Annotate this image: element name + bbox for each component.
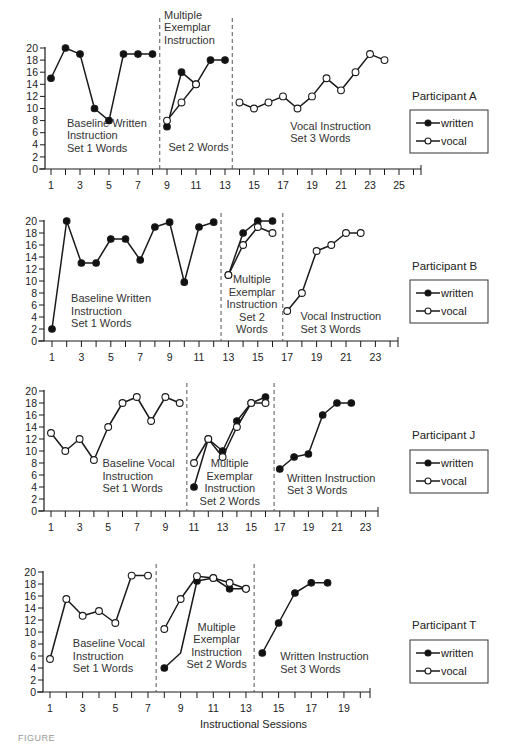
- y-tick-label: 10: [24, 626, 36, 638]
- x-tick-label: 3: [80, 702, 86, 714]
- x-tick-label: 3: [78, 351, 84, 363]
- data-point-written: [191, 484, 198, 491]
- data-point-written: [348, 400, 355, 407]
- data-point-written: [207, 57, 214, 64]
- y-tick-label: 12: [26, 90, 38, 102]
- data-point-written: [122, 236, 129, 243]
- data-point-vocal: [177, 596, 184, 603]
- data-point-written: [161, 665, 168, 672]
- data-point-vocal: [328, 242, 335, 249]
- data-point-vocal: [148, 418, 155, 425]
- data-point-vocal: [313, 248, 320, 255]
- y-tick-label: 14: [25, 421, 37, 433]
- data-point-vocal: [91, 457, 98, 464]
- y-tick-label: 4: [31, 481, 37, 493]
- x-tick-label: 1: [47, 702, 53, 714]
- y-tick-label: 14: [24, 602, 36, 614]
- data-point-vocal: [210, 575, 217, 582]
- data-point-vocal: [178, 99, 185, 106]
- data-point-written: [259, 650, 266, 657]
- y-tick-label: 6: [31, 469, 37, 481]
- x-tick-label: 5: [106, 179, 112, 191]
- data-point-vocal: [119, 400, 126, 407]
- y-tick-label: 20: [25, 385, 37, 397]
- series-line-vocal: [194, 403, 266, 463]
- y-tick-label: 0: [31, 505, 37, 517]
- data-point-vocal: [265, 99, 272, 106]
- phase-label: Baseline VocalInstructionSet 1 Words: [73, 637, 145, 674]
- y-tick-label: 16: [26, 66, 38, 78]
- x-tick-label: 23: [360, 521, 372, 533]
- data-point-written: [277, 466, 284, 473]
- x-tick-label: 1: [48, 521, 54, 533]
- series-line-written: [280, 403, 352, 469]
- x-tick-label: 7: [135, 179, 141, 191]
- multiple-baseline-figure: 02468101214161820135791113151719212325Ba…: [0, 0, 507, 744]
- phase-label: MultipleExemplarInstructionSet 2 Words: [200, 457, 261, 507]
- phase-label: Baseline WrittenInstructionSet 1 Words: [71, 292, 151, 329]
- y-tick-label: 2: [32, 151, 38, 163]
- x-tick-label: 5: [108, 351, 114, 363]
- y-tick-label: 10: [25, 445, 37, 457]
- data-point-vocal: [226, 579, 233, 586]
- legend-marker-written: [425, 650, 431, 656]
- x-tick-label: 13: [217, 521, 229, 533]
- data-point-vocal: [234, 424, 241, 431]
- y-tick-label: 10: [26, 102, 38, 114]
- y-tick-label: 4: [31, 311, 37, 323]
- data-point-written: [178, 69, 185, 76]
- data-point-vocal: [96, 608, 103, 615]
- x-tick-label: 17: [274, 521, 286, 533]
- x-tick-label: 23: [370, 351, 382, 363]
- phase-label: MultipleExemplarInstructionSet 2Words: [227, 273, 278, 335]
- x-tick-label: 11: [194, 351, 205, 363]
- x-tick-label: 25: [393, 179, 405, 191]
- series-line-vocal: [51, 397, 180, 460]
- y-tick-label: 4: [32, 138, 38, 150]
- data-point-vocal: [105, 424, 112, 431]
- y-tick-label: 18: [26, 54, 38, 66]
- data-point-written: [181, 279, 188, 286]
- y-tick-label: 12: [24, 614, 36, 626]
- data-point-written: [120, 51, 127, 58]
- data-point-vocal: [262, 400, 269, 407]
- legend-title: Participant T: [412, 619, 476, 631]
- y-tick-label: 20: [25, 215, 37, 227]
- data-point-vocal: [269, 230, 276, 237]
- y-tick-label: 8: [32, 114, 38, 126]
- data-point-written: [49, 326, 56, 333]
- y-tick-label: 2: [30, 674, 36, 686]
- phase-label: Vocal InstructionSet 3 Words: [290, 120, 371, 145]
- x-tick-label: 15: [245, 521, 257, 533]
- x-tick-label: 13: [223, 351, 235, 363]
- y-tick-label: 8: [31, 287, 37, 299]
- legend-label-written: written: [440, 117, 473, 129]
- data-point-vocal: [352, 69, 359, 76]
- legend-marker-vocal: [425, 138, 431, 144]
- data-point-written: [210, 219, 217, 226]
- y-tick-label: 0: [31, 335, 37, 347]
- data-point-vocal: [133, 394, 140, 401]
- data-point-vocal: [219, 454, 226, 461]
- data-point-written: [152, 224, 159, 231]
- x-axis-title: Instructional Sessions: [200, 718, 307, 730]
- x-tick-label: 9: [167, 351, 173, 363]
- legend-marker-written: [425, 460, 431, 466]
- y-tick-label: 6: [31, 299, 37, 311]
- x-tick-label: 7: [145, 702, 151, 714]
- data-point-written: [196, 224, 203, 231]
- data-point-vocal: [254, 224, 261, 231]
- data-point-vocal: [161, 626, 168, 633]
- x-tick-label: 5: [112, 702, 118, 714]
- data-point-written: [292, 590, 299, 597]
- data-point-vocal: [367, 51, 374, 58]
- series-line-written: [167, 60, 225, 127]
- phase-label: Set 2 Words: [168, 141, 229, 153]
- y-tick-label: 12: [25, 263, 37, 275]
- data-point-vocal: [128, 572, 135, 579]
- data-point-written: [137, 257, 144, 264]
- x-tick-label: 9: [178, 702, 184, 714]
- data-point-vocal: [76, 436, 83, 443]
- y-tick-label: 18: [25, 397, 37, 409]
- data-point-vocal: [225, 272, 232, 279]
